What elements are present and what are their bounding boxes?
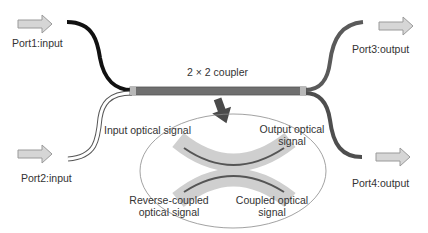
port4-arrow-icon <box>376 148 410 166</box>
port3-arrow-icon <box>379 17 413 35</box>
zoom-arrow-icon <box>208 95 236 126</box>
coupler-bar <box>130 87 306 95</box>
port1-arrow-icon <box>18 15 52 33</box>
port1-label: Port1:input <box>12 37 63 49</box>
coupled-signal-label: Coupled optical signal <box>232 194 312 218</box>
coupler-title: 2 × 2 coupler <box>187 66 248 78</box>
port1-fiber <box>67 22 132 90</box>
inset-coupler-shape <box>178 140 290 200</box>
reverse-coupled-label: Reverse-coupled optical signal <box>124 194 214 218</box>
port2-arrow-icon <box>18 145 52 163</box>
port2-label: Port2:input <box>21 172 72 184</box>
input-signal-label: Input optical signal <box>104 124 191 136</box>
port4-label: Port4:output <box>352 177 409 189</box>
port3-label: Port3:output <box>352 43 409 55</box>
port3-fiber <box>305 22 363 90</box>
coupler-diagram <box>0 0 428 233</box>
output-signal-label: Output optical signal <box>252 123 332 147</box>
